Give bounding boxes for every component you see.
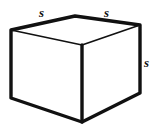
cube-left-face (11, 30, 82, 122)
label-top-left-edge: s (39, 6, 44, 19)
label-top-right-edge: s (104, 6, 109, 19)
label-right-vertical-edge: s (144, 56, 149, 69)
cube-drawing (0, 0, 158, 132)
cube-figure: s s s (0, 0, 158, 132)
